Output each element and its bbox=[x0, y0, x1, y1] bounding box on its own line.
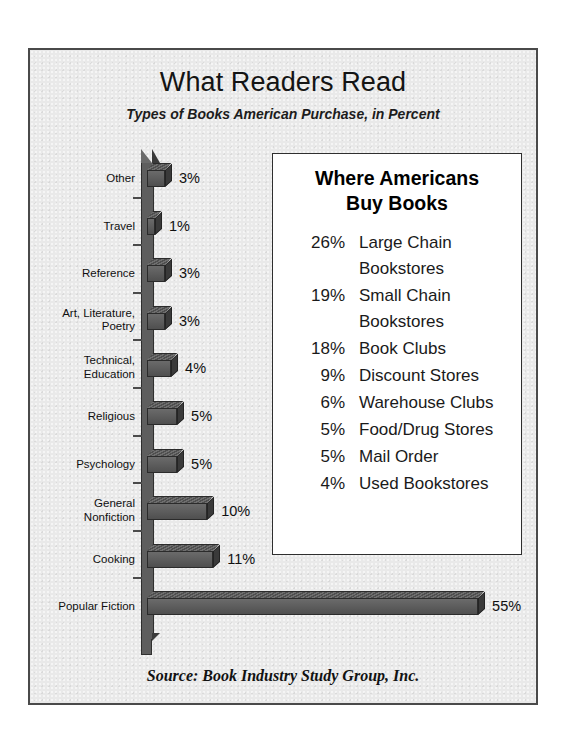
side-panel-title-line2: Buy Books bbox=[273, 191, 521, 216]
bar-category-label: Psychology bbox=[30, 458, 135, 472]
poster-frame: What Readers Read Types of Books America… bbox=[28, 48, 538, 705]
bar-category-label-line: Travel bbox=[30, 220, 135, 234]
bar bbox=[147, 306, 173, 332]
bar-front-face bbox=[147, 313, 165, 330]
axis-tick bbox=[133, 530, 142, 532]
axis-tick bbox=[133, 482, 142, 484]
bar-front-face bbox=[147, 408, 177, 425]
bar-category-label: Technical,Education bbox=[30, 354, 135, 381]
bar-front-face bbox=[147, 456, 177, 473]
axis-tick bbox=[133, 244, 142, 246]
list-item: 19%Small ChainBookstores bbox=[287, 283, 513, 335]
axis-tick bbox=[133, 292, 142, 294]
bar bbox=[147, 449, 185, 475]
bar-value-label: 10% bbox=[221, 503, 250, 519]
list-item-label-line: Food/Drug Stores bbox=[359, 417, 493, 443]
list-item-label: Used Bookstores bbox=[359, 471, 488, 497]
axis-tick bbox=[133, 197, 142, 199]
list-item-label-line: Bookstores bbox=[359, 309, 451, 335]
list-item-label-line: Discount Stores bbox=[359, 363, 479, 389]
bar-category-label: Popular Fiction bbox=[30, 600, 135, 614]
bar-category-label-line: General bbox=[30, 497, 135, 511]
bar-category-label-line: Popular Fiction bbox=[30, 600, 135, 614]
bar-top-face bbox=[147, 544, 220, 551]
bar-category-label-line: Reference bbox=[30, 267, 135, 281]
list-item: 6%Warehouse Clubs bbox=[287, 390, 513, 416]
bar-value-label: 55% bbox=[492, 598, 521, 614]
bar-value-label: 3% bbox=[179, 170, 200, 186]
list-item-label: Large ChainBookstores bbox=[359, 230, 452, 282]
bar-category-label: Art, Literature,Poetry bbox=[30, 307, 135, 334]
bar-category-label-line: Technical, bbox=[30, 354, 135, 368]
bar-value-label: 1% bbox=[169, 218, 190, 234]
bar bbox=[147, 353, 179, 379]
list-item-percent: 18% bbox=[287, 336, 359, 362]
bar-category-label-line: Nonfiction bbox=[30, 511, 135, 525]
bar bbox=[147, 591, 486, 617]
axis-tick bbox=[133, 577, 142, 579]
list-item-percent: 6% bbox=[287, 390, 359, 416]
list-item: 4%Used Bookstores bbox=[287, 471, 513, 497]
list-item-label: Book Clubs bbox=[359, 336, 446, 362]
bar-category-label: Reference bbox=[30, 267, 135, 281]
list-item: 9%Discount Stores bbox=[287, 363, 513, 389]
bar bbox=[147, 258, 173, 284]
bar-front-face bbox=[147, 218, 155, 235]
bar bbox=[147, 496, 215, 522]
bar-category-label-line: Psychology bbox=[30, 458, 135, 472]
list-item-percent: 5% bbox=[287, 444, 359, 470]
list-item-label-line: Warehouse Clubs bbox=[359, 390, 494, 416]
bar-value-label: 3% bbox=[179, 265, 200, 281]
side-panel-title: Where Americans Buy Books bbox=[273, 166, 521, 216]
side-panel-list: 26%Large ChainBookstores19%Small ChainBo… bbox=[273, 230, 521, 497]
list-item: 18%Book Clubs bbox=[287, 336, 513, 362]
list-item-percent: 19% bbox=[287, 283, 359, 309]
bar-value-label: 5% bbox=[191, 408, 212, 424]
bar bbox=[147, 544, 221, 570]
bar-category-label: Travel bbox=[30, 220, 135, 234]
bar-value-label: 4% bbox=[185, 360, 206, 376]
bar bbox=[147, 401, 185, 427]
axis-tick bbox=[133, 435, 142, 437]
axis-arrow-icon bbox=[141, 149, 152, 163]
side-panel: Where Americans Buy Books 26%Large Chain… bbox=[272, 153, 522, 555]
axis-base-shadow bbox=[152, 633, 160, 641]
list-item-label: Warehouse Clubs bbox=[359, 390, 494, 416]
bar-front-face bbox=[147, 360, 171, 377]
bar-category-label: Cooking bbox=[30, 553, 135, 567]
bar-category-label-line: Education bbox=[30, 368, 135, 382]
bar-front-face bbox=[147, 503, 207, 520]
bar-top-face bbox=[147, 401, 183, 408]
page-subtitle: Types of Books American Purchase, in Per… bbox=[30, 106, 536, 122]
list-item-label: Small ChainBookstores bbox=[359, 283, 451, 335]
bar-category-label: Other bbox=[30, 172, 135, 186]
bar-category-label-line: Poetry bbox=[30, 320, 135, 334]
infographic-root: What Readers Read Types of Books America… bbox=[0, 0, 568, 751]
bar-front-face bbox=[147, 551, 213, 568]
list-item-label: Discount Stores bbox=[359, 363, 479, 389]
list-item-label: Mail Order bbox=[359, 444, 438, 470]
list-item: 5%Mail Order bbox=[287, 444, 513, 470]
list-item-percent: 5% bbox=[287, 417, 359, 443]
list-item-label-line: Large Chain bbox=[359, 230, 452, 256]
list-item-percent: 9% bbox=[287, 363, 359, 389]
source-note: Source: Book Industry Study Group, Inc. bbox=[30, 667, 536, 685]
bar bbox=[147, 163, 173, 189]
bar-front-face bbox=[147, 598, 478, 615]
list-item: 5%Food/Drug Stores bbox=[287, 417, 513, 443]
page-title: What Readers Read bbox=[30, 67, 536, 98]
side-panel-title-line1: Where Americans bbox=[273, 166, 521, 191]
bar-category-label-line: Other bbox=[30, 172, 135, 186]
bar-front-face bbox=[147, 170, 165, 187]
axis-arrow-shadow-icon bbox=[152, 149, 160, 163]
list-item: 26%Large ChainBookstores bbox=[287, 230, 513, 282]
axis-base bbox=[141, 639, 152, 655]
bar-front-face bbox=[147, 265, 165, 282]
axis-tick bbox=[133, 387, 142, 389]
bar-category-label: Religious bbox=[30, 410, 135, 424]
bar-top-face bbox=[147, 449, 183, 456]
bar-value-label: 3% bbox=[179, 313, 200, 329]
bar-value-label: 11% bbox=[227, 551, 255, 567]
list-item-percent: 4% bbox=[287, 471, 359, 497]
list-item-label-line: Mail Order bbox=[359, 444, 438, 470]
